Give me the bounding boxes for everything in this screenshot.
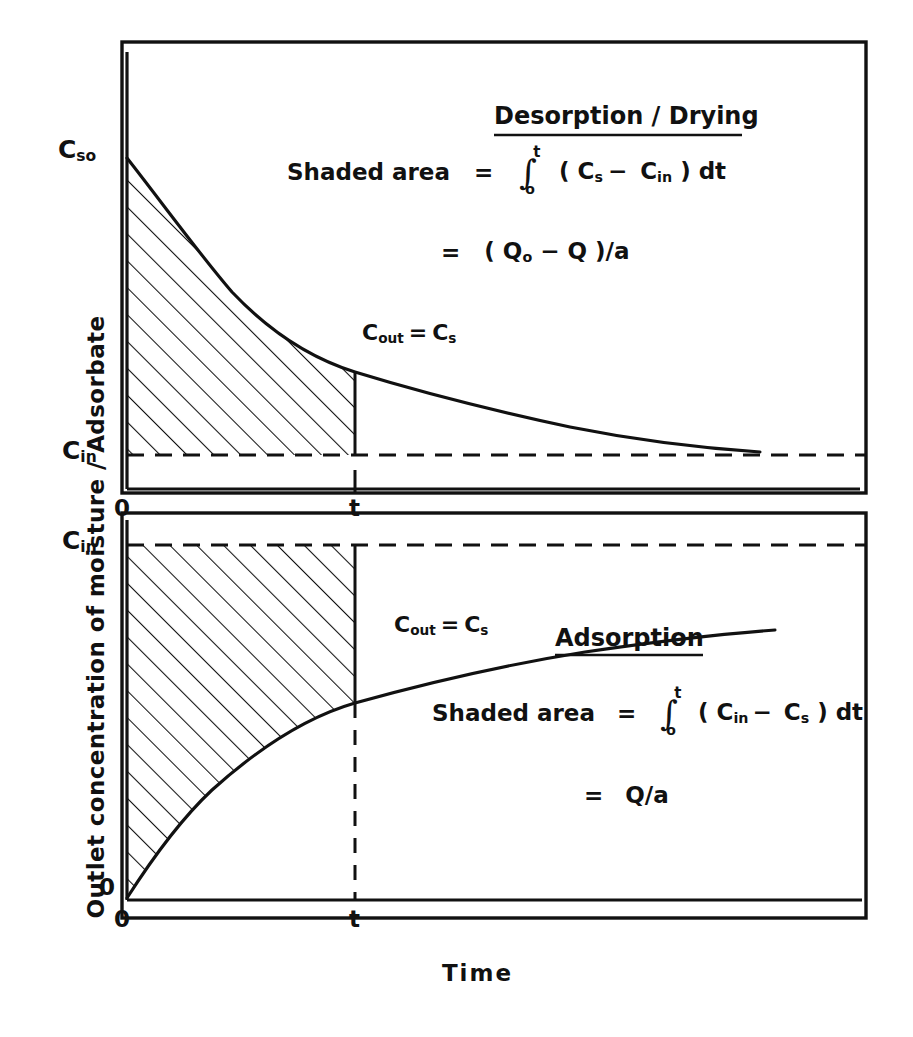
eq2-body-adsorption: Q/a: [625, 784, 668, 807]
x-tick-label-t-desorption: t: [349, 497, 360, 520]
y-tick-label-origin-adsorption: 0: [99, 876, 115, 899]
x-axis-title-wrap: Time: [0, 962, 913, 985]
eq-lead-desorption: Shaded area: [287, 161, 450, 184]
x-tick-label-origin-desorption: 0: [114, 497, 130, 520]
panel-heading-desorption: Desorption / Drying: [494, 104, 759, 128]
integral-icon-desorption: ∫to: [519, 155, 537, 189]
eq-lead-adsorption: Shaded area: [432, 702, 595, 725]
eq2-body-desorption: ( Qo − Q )/a: [484, 240, 629, 264]
y-axis-title: Outlet concentration of moisture / Adsor…: [83, 297, 109, 937]
eq-equals-desorption: =: [474, 161, 493, 184]
y-label-cso-desorption: Cso: [58, 137, 96, 165]
curve-label-desorption: Cout=Cs: [362, 322, 456, 346]
eq-equals-adsorption: =: [617, 702, 636, 725]
y-label-cin-desorption: Cin: [62, 438, 97, 466]
panel-heading-adsorption: Adsorption: [555, 626, 704, 650]
curve-label-adsorption: Cout=Cs: [394, 614, 488, 638]
eq2-equals-adsorption: =: [584, 784, 603, 807]
equation-shaded-area-adsorption: Shaded area = ∫to ( Cin− Cs ) dt: [432, 696, 863, 730]
eq-body-desorption: ( Cs− Cin ) dt: [559, 160, 726, 184]
eq2-equals-desorption: =: [441, 241, 460, 264]
equation-result-adsorption: = Q/a: [584, 783, 669, 807]
y-label-cin-adsorption: Cin: [62, 528, 97, 556]
x-tick-label-t-adsorption: t: [349, 908, 360, 931]
x-tick-label-origin-adsorption: 0: [114, 908, 130, 931]
equation-shaded-area-desorption: Shaded area = ∫to ( Cs− Cin ) dt: [287, 155, 726, 189]
eq-body-adsorption: ( Cin− Cs ) dt: [698, 701, 863, 725]
x-axis-title: Time: [442, 962, 513, 985]
figure-root: Outlet concentration of moisture / Adsor…: [0, 0, 913, 1037]
equation-result-desorption: = ( Qo − Q )/a: [441, 240, 629, 265]
integral-icon-adsorption: ∫to: [660, 696, 678, 730]
